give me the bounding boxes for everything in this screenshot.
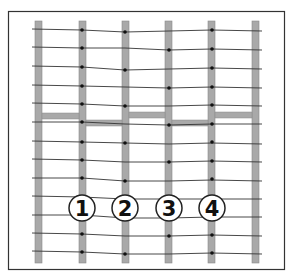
label-1: 1 <box>69 195 95 221</box>
post-1 <box>35 21 42 263</box>
label-4: 4 <box>199 195 225 221</box>
svg-text:3: 3 <box>162 197 177 221</box>
post-6 <box>252 21 259 263</box>
fence-diagram: 1 2 3 4 <box>0 0 293 278</box>
svg-text:1: 1 <box>75 197 90 221</box>
label-3: 3 <box>156 195 182 221</box>
label-2: 2 <box>112 195 138 221</box>
svg-text:4: 4 <box>205 197 220 221</box>
post-4 <box>165 21 172 263</box>
rail-3 <box>129 112 165 118</box>
diagram-frame <box>9 12 285 270</box>
rail-1 <box>42 113 79 119</box>
rail-5 <box>215 112 252 118</box>
svg-text:2: 2 <box>118 197 133 221</box>
